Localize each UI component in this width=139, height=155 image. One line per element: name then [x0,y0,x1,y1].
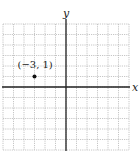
data-point [33,75,37,79]
x-axis-label: x [132,81,139,94]
data-points: (−3, 1) [18,59,53,79]
coordinate-plane: x y (−3, 1) [0,0,139,155]
y-axis-label: y [62,7,70,20]
point-label: (−3, 1) [18,59,53,70]
